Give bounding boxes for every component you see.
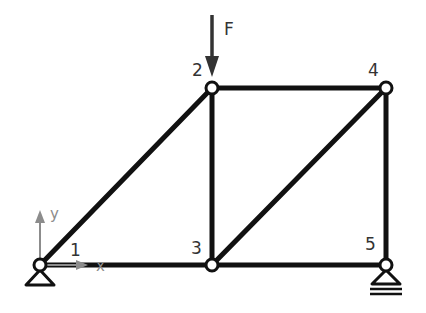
y-axis-arrowhead-icon xyxy=(35,210,45,223)
y-axis-label: y xyxy=(50,205,59,223)
node-2 xyxy=(206,82,218,94)
node-label-2: 2 xyxy=(192,60,203,80)
truss-diagram: x y F 1 2 3 4 5 xyxy=(0,0,426,313)
member-1-2 xyxy=(40,88,212,265)
node-label-5: 5 xyxy=(365,234,376,254)
node-5 xyxy=(380,259,392,271)
node-label-3: 3 xyxy=(191,238,202,258)
node-1 xyxy=(34,259,46,271)
load-force-arrow: F xyxy=(205,15,234,77)
node-label-1: 1 xyxy=(70,240,81,260)
node-4 xyxy=(380,82,392,94)
node-label-4: 4 xyxy=(368,60,379,80)
node-3 xyxy=(206,259,218,271)
x-axis-label: x xyxy=(96,257,105,275)
x-axis-arrowhead-icon xyxy=(76,260,88,270)
roller-support-node-5 xyxy=(370,270,402,294)
truss-members xyxy=(40,88,386,265)
member-3-4 xyxy=(212,88,386,265)
force-label: F xyxy=(224,19,234,39)
force-arrowhead-icon xyxy=(205,56,219,77)
